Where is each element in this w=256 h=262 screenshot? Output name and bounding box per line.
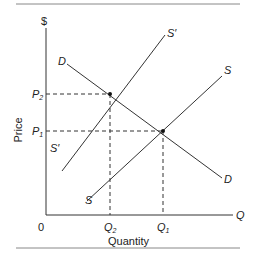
q1-label: Q1 bbox=[157, 221, 170, 234]
equilibrium-point-1 bbox=[161, 129, 165, 133]
supply-shifted-label-top: S′ bbox=[167, 27, 177, 39]
supply-shifted-curve bbox=[62, 35, 165, 171]
p2-label: P2 bbox=[32, 88, 43, 101]
origin-label: 0 bbox=[38, 221, 44, 233]
supply-demand-diagram: $ Q 0 Quantity Price P2 P1 Q2 Q1 D D S′ … bbox=[0, 0, 256, 262]
supply-shifted-label-bottom: S′ bbox=[50, 142, 60, 154]
supply-label-bottom: S bbox=[85, 194, 93, 206]
p1-label: P1 bbox=[32, 125, 43, 138]
x-axis-label: Quantity bbox=[108, 235, 149, 247]
supply-curve bbox=[87, 76, 222, 201]
y-axis-symbol: $ bbox=[41, 15, 47, 27]
x-axis-symbol: Q bbox=[236, 209, 245, 221]
supply-label-top: S bbox=[224, 64, 232, 76]
demand-label-bottom: D bbox=[224, 173, 232, 185]
demand-label-top: D bbox=[58, 55, 66, 67]
demand-curve bbox=[67, 64, 222, 178]
y-axis-label: Price bbox=[12, 117, 24, 142]
q2-label: Q2 bbox=[104, 221, 117, 234]
equilibrium-point-2 bbox=[108, 92, 112, 96]
